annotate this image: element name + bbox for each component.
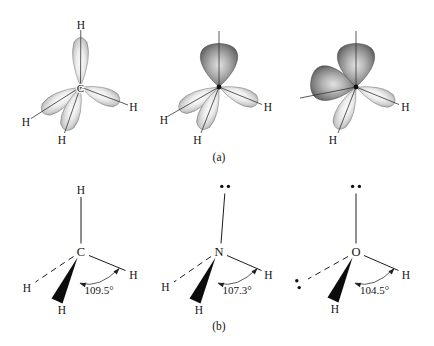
hydrogen-label: H [22,116,30,128]
central-atom-label: O [351,245,360,259]
wedge-bond [328,258,353,303]
hydrogen-label: H [129,101,137,113]
hydrogen-label: H [58,134,66,146]
nucleus-dot [354,85,359,90]
panel-b-label: (b) [212,320,226,333]
central-atom-label: C [77,245,85,259]
hydrogen-label: H [58,304,66,316]
hydrogen-label: H [23,282,31,294]
figure-canvas: C H H H H H H H [0,0,434,346]
bond-angle-label: 107.3° [222,284,251,296]
hydrogen-label: H [193,134,201,146]
wedge-bond [52,258,78,304]
bond-line [364,256,399,271]
hybridization-figure: C H H H H H H H [0,0,434,346]
panel-a: C H H H H H H H [22,19,410,165]
lone-pair-dot [220,185,223,188]
hydrogen-label: H [402,269,410,281]
hydrogen-label: H [160,114,168,126]
angle-arc [355,269,394,285]
nucleus-dot [217,85,222,90]
central-atom-label: C [77,82,84,94]
central-atom-label: N [214,245,223,259]
lone-pair-dot [227,185,230,188]
hydrogen-label: H [401,101,409,113]
hydrogen-label: H [329,134,337,146]
bond-angle-label: 109.5° [84,284,113,296]
methane-wedge-structure: H C H H H 109.5° [23,184,138,316]
hydrogen-label: H [195,304,203,316]
ammonia-orbital-model: H H H [160,31,272,146]
hydrogen-label: H [129,269,137,281]
water-orbital-model: H H [300,31,410,146]
bond-line [221,194,225,244]
hydrogen-label: H [77,184,85,196]
angle-arc [218,269,257,285]
bond-angle-label: 104.5° [360,284,389,296]
hydrogen-label: H [264,269,272,281]
angle-arc [80,269,119,285]
bond-line [89,256,126,271]
wedge-bond [190,258,216,304]
methane-orbital-model: C H H H H [22,19,138,146]
panel-b: H C H H H 109.5° N H H H [23,184,410,333]
hydrogen-label: H [264,101,272,113]
lone-pair-dot [358,185,361,188]
lone-pair-dot [351,185,354,188]
water-wedge-structure: O H H 104.5° [295,185,410,315]
hydrogen-label: H [331,303,339,315]
lone-pair-dot [298,286,301,289]
hydrogen-label: H [161,281,169,293]
ammonia-wedge-structure: N H H H 107.3° [161,185,272,316]
lone-pair-dot [295,279,298,282]
bond-line [227,256,262,271]
panel-a-label: (a) [213,151,226,164]
hydrogen-label: H [77,19,85,31]
